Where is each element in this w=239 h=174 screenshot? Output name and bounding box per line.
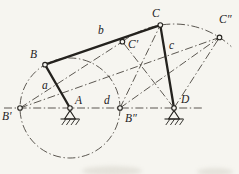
label-c: c — [169, 39, 174, 51]
coupler-point-path-arc — [122, 24, 231, 47]
joint-C — [158, 23, 163, 28]
joint-Bp — [18, 106, 23, 111]
joint-Bpp — [118, 106, 123, 111]
joint-Cp — [120, 39, 125, 44]
line-D-Cprime — [122, 42, 174, 108]
label-B-prime: B′ — [2, 110, 12, 122]
label-b: b — [98, 24, 104, 36]
label-C-double-prime: C″ — [219, 13, 232, 25]
ground-hatch-D — [170, 119, 174, 125]
joint-D — [172, 106, 177, 111]
label-B-double-prime: B″ — [125, 112, 137, 124]
linkage-diagram: ABCDB′B″C′C″abcd — [0, 0, 239, 174]
ground-hatch-A — [62, 119, 66, 125]
scan-smudge — [82, 166, 142, 174]
joint-Cpp — [217, 35, 222, 40]
label-B: B — [30, 48, 37, 60]
label-D: D — [180, 93, 190, 105]
ground-hatch-A — [76, 119, 80, 125]
joint-B — [43, 62, 48, 67]
ground-hatch-A — [71, 119, 75, 125]
label-a: a — [42, 79, 48, 91]
label-C-prime: C′ — [128, 38, 139, 50]
link-a-crank — [45, 65, 70, 108]
ground-hatch-D — [175, 119, 179, 125]
label-A: A — [74, 94, 83, 106]
ground-triangle-A — [65, 111, 76, 119]
ground-hatch-D — [166, 119, 170, 125]
ground-triangle-D — [169, 111, 180, 119]
ground-hatch-D — [180, 119, 184, 125]
label-d: d — [104, 94, 110, 106]
joint-A — [68, 106, 73, 111]
scan-smudge — [197, 168, 233, 174]
ground-hatch-A — [66, 119, 70, 125]
figure-four-bar-linkage: ABCDB′B″C′C″abcd — [0, 0, 239, 174]
label-C: C — [152, 7, 160, 19]
link-c-rocker — [160, 25, 174, 108]
